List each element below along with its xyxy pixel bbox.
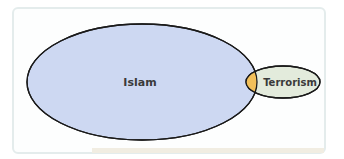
venn-diagram: Islam Terrorism — [0, 0, 344, 159]
label-islam: Islam — [123, 76, 156, 89]
label-terrorism: Terrorism — [263, 77, 317, 88]
